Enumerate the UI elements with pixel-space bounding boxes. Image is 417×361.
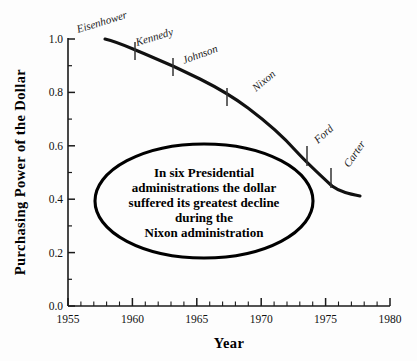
y-axis-title: Purchasing Power of the Dollar — [12, 69, 28, 276]
x-tick-label: 1960 — [121, 313, 144, 325]
chart-container: 0.0 0.2 0.4 0.6 0.8 1.0 — [0, 0, 417, 361]
purchasing-power-line-chart: 0.0 0.2 0.4 0.6 0.8 1.0 — [0, 0, 417, 361]
x-tick-label: 1975 — [314, 313, 337, 325]
x-tick-label: 1980 — [379, 313, 402, 325]
x-axis-title: Year — [214, 335, 245, 351]
x-tick-label: 1965 — [185, 313, 208, 325]
annotation-line: during the — [175, 210, 233, 225]
y-tick-label: 0.4 — [49, 193, 64, 205]
annotation-line: administrations the dollar — [132, 180, 277, 195]
annotation-line: In six Presidential — [154, 165, 255, 180]
x-tick-label: 1955 — [57, 313, 80, 325]
annotation-line: Nixon administration — [145, 225, 265, 240]
y-tick-label: 0.8 — [49, 86, 64, 98]
y-tick-label: 0.6 — [49, 140, 64, 152]
y-tick-label: 0.2 — [49, 247, 64, 259]
annotation-line: suffered its greatest decline — [129, 195, 280, 210]
y-tick-label: 0.0 — [49, 300, 64, 312]
x-tick-label: 1970 — [250, 313, 273, 325]
y-tick-label: 1.0 — [49, 33, 64, 45]
